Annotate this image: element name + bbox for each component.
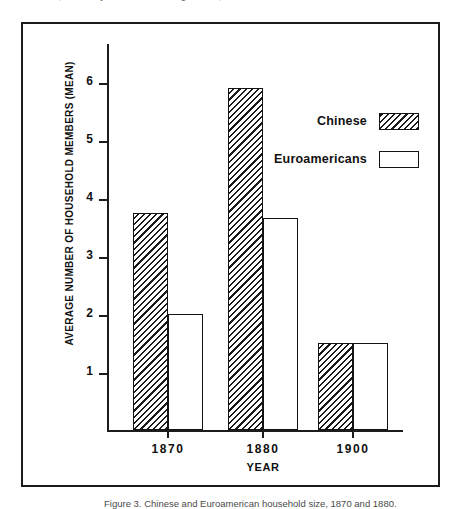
y-tick-label-5: 5 (86, 133, 93, 145)
chart-legend: Chinese Euroamericans (219, 108, 419, 184)
y-tick-6: 6 (99, 83, 108, 85)
y-axis-title: AVERAGE NUMBER OF HOUSEHOLD MEMBERS (MEA… (64, 106, 75, 346)
y-tick-4: 4 (99, 199, 108, 201)
x-tick-1880 (262, 430, 264, 438)
legend-entry-euroamericans: Euroamericans (219, 146, 419, 172)
legend-label-chinese: Chinese (317, 114, 367, 128)
bar-euroamericans-1870 (168, 314, 203, 430)
y-tick-label-3: 3 (86, 249, 93, 261)
y-tick-3: 3 (99, 257, 108, 259)
x-tick-label-1870: 1870 (151, 442, 184, 456)
x-tick-label-1900: 1900 (336, 442, 369, 456)
y-tick-label-1: 1 (86, 365, 93, 377)
y-tick-label-2: 2 (86, 307, 93, 319)
x-axis-line (107, 430, 403, 432)
bar-euroamericans-1880 (263, 218, 298, 430)
y-tick-label-4: 4 (86, 191, 93, 203)
bar-chart-plot: 6 5 4 3 2 1 AVERAGE NUMBER OF HOUSEHOLD … (23, 24, 442, 489)
x-tick-1900 (352, 430, 354, 438)
y-tick-1: 1 (99, 373, 108, 375)
legend-entry-chinese: Chinese (219, 108, 419, 134)
x-axis-title: YEAR (247, 461, 280, 473)
x-tick-1870 (167, 430, 169, 438)
bar-chinese-1870 (133, 213, 168, 430)
clipped-body-text-above-figure: between, and very few of them single men… (18, 0, 438, 3)
y-tick-2: 2 (99, 315, 108, 317)
legend-swatch-euroamericans-open (379, 151, 419, 168)
bar-euroamericans-1900 (353, 343, 388, 430)
legend-swatch-chinese-hatched (379, 113, 419, 130)
figure-caption: Figure 3. Chinese and Euroamerican house… (104, 498, 456, 509)
bar-chinese-1900 (318, 343, 353, 430)
y-tick-label-6: 6 (86, 75, 93, 87)
y-tick-5: 5 (99, 141, 108, 143)
figure-frame: 6 5 4 3 2 1 AVERAGE NUMBER OF HOUSEHOLD … (21, 22, 440, 487)
legend-label-euroamericans: Euroamericans (274, 152, 367, 166)
x-tick-label-1880: 1880 (246, 442, 279, 456)
